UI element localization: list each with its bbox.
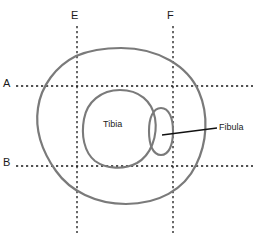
axis-label-e: E bbox=[71, 10, 78, 21]
axis-label-a: A bbox=[3, 78, 10, 89]
axis-label-f: F bbox=[167, 10, 174, 21]
fibula-label: Fibula bbox=[219, 123, 244, 132]
tibia-label: Tibia bbox=[103, 120, 122, 129]
axis-label-b: B bbox=[3, 157, 10, 168]
diagram-canvas bbox=[0, 0, 253, 233]
fibula-outline bbox=[149, 108, 173, 155]
cross-section-diagram: A B E F Tibia Fibula bbox=[0, 0, 253, 233]
fibula-leader-line bbox=[162, 128, 217, 135]
